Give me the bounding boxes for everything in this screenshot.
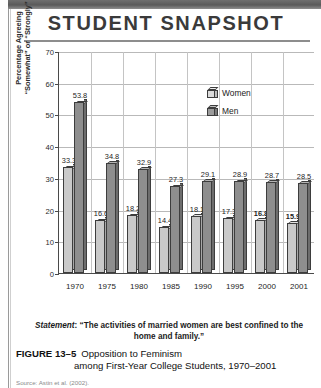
y-axis-tick-mark [55,274,59,275]
bar-value-label: 29.1 [201,170,215,179]
page-title: STUDENT SNAPSHOT [20,12,312,35]
bar-value-label: 28.7 [265,171,279,180]
figure-label: FIGURE 13–5 [16,348,76,360]
y-axis-tick-label: 50 [46,111,54,120]
bar-value-label: 27.3 [169,175,183,184]
y-axis-tick-label: 70 [46,48,54,57]
bar-men-1985 [170,186,180,273]
bar-value-label: 32.9 [137,158,151,167]
bar-women-1995 [223,218,233,273]
y-axis-tick-label: 30 [46,174,54,183]
bar-value-label: 28.9 [233,170,247,179]
bar-men-2000 [266,182,276,273]
x-axis-label-1995: 1995 [226,282,244,291]
left-border-rule [8,9,9,388]
statement-prefix: Statement [35,321,75,330]
top-decorative-band [8,0,321,9]
bar-men-1995 [234,181,244,273]
plot-canvas: 010203040506070 33.353.816.634.818.232.9… [58,52,314,274]
legend-item-women: Women [207,85,251,100]
y-axis-title: Percentage Agreeing “Somewhat” or “Stron… [14,0,32,108]
bar-value-label: 28.5 [297,172,311,181]
legend-label-men: Men [222,106,238,116]
y-axis-tick-label: 40 [46,143,54,152]
x-axis-label-1985: 1985 [162,282,180,291]
x-axis-label-2000: 2000 [258,282,276,291]
title-divider [24,40,310,42]
bar-women-2000 [255,220,265,273]
bar-men-1990 [202,181,212,273]
bar-women-1975 [95,220,105,273]
legend-label-women: Women [222,88,251,98]
bar-women-1980 [127,215,137,273]
figure-caption-line2: among First-Year College Students, 1970–… [74,360,316,372]
bar-value-label: 53.8 [73,91,87,100]
x-axis-label-1980: 1980 [130,282,148,291]
figure-caption-line1: Opposition to Feminism [74,348,316,360]
source-note: Source: Astin et al. (2002). [16,379,276,386]
bar-women-1990 [191,216,201,273]
statement-text: : “The activities of married women are b… [75,321,303,341]
bar-women-2001 [287,223,297,273]
bar-men-1970 [74,102,84,273]
y-axis-tick-label: 0 [50,270,54,279]
y-axis-title-line2: “Somewhat” or “Strongly” [23,0,32,108]
bar-women-1985 [159,227,169,273]
y-axis-title-line1: Percentage Agreeing [14,0,23,108]
bar-value-label: 34.8 [105,152,119,161]
y-axis-tick-label: 60 [46,79,54,88]
bar-men-2001 [298,183,308,273]
bar-men-1975 [106,163,116,273]
bar-men-1980 [138,169,148,273]
chart-area: Percentage Agreeing “Somewhat” or “Stron… [16,48,316,296]
legend-item-men: Men [207,103,251,118]
left-border-rule-inner [10,9,11,388]
bar-series-layer: 33.353.816.634.818.232.914.427.318.129.1… [59,52,314,273]
figure-caption: FIGURE 13–5 Opposition to Feminism among… [16,348,316,373]
x-axis-label-1990: 1990 [194,282,212,291]
cube-icon [207,87,218,98]
statement-note: Statement: “The activities of married wo… [30,320,308,342]
chart-legend: Women Men [207,85,251,121]
x-axis-label-1975: 1975 [98,282,116,291]
x-axis-label-2001: 2001 [290,282,308,291]
y-axis-tick-label: 20 [46,206,54,215]
y-axis-tick-label: 10 [46,238,54,247]
figure-panel: STUDENT SNAPSHOT Percentage Agreeing “So… [0,0,321,388]
bar-women-1970 [63,167,73,273]
cube-icon [207,105,218,116]
x-axis-label-1970: 1970 [66,282,84,291]
